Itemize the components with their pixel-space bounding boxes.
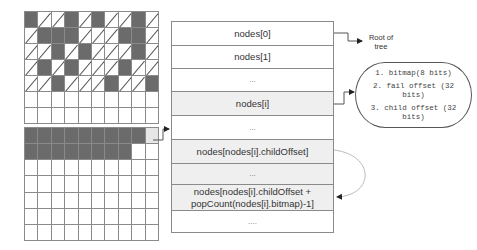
arrow-node-fields (334, 92, 354, 104)
arrow-root-of-tree (334, 33, 362, 41)
arrow-grid-to-table (153, 129, 169, 140)
connector-arrows (0, 0, 477, 250)
curved-arrow-child-range (334, 150, 365, 197)
